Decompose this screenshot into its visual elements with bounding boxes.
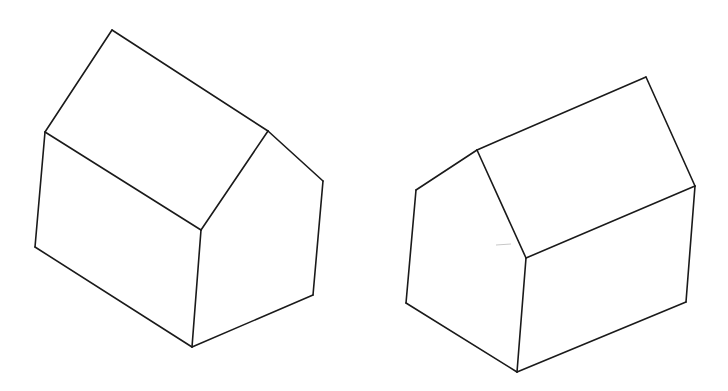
edge-gable_right_corner-base_right bbox=[313, 181, 323, 295]
left-house-drawing bbox=[35, 30, 323, 347]
edge-left_eave-base_left bbox=[35, 132, 45, 247]
edge-gable_apex-ridge_back bbox=[477, 77, 646, 150]
edge-roof_apex_back-ridge_front bbox=[112, 30, 268, 131]
edge-base_left-base_center bbox=[35, 247, 192, 347]
edge-gable_apex-front_eave_corner bbox=[477, 150, 526, 258]
edge-gable_left_corner-base_left bbox=[406, 190, 416, 303]
edge-base_center-base_right bbox=[517, 302, 686, 372]
edge-front_eave_corner-base_center bbox=[517, 258, 526, 372]
edge-left_eave-front_eave_corner bbox=[45, 132, 201, 230]
edge-base_left-base_center bbox=[406, 303, 517, 372]
scan-artifact bbox=[496, 244, 511, 245]
edge-right_eave-base_right bbox=[686, 186, 695, 302]
edge-ridge_front-gable_right_corner bbox=[268, 131, 323, 181]
edge-front_eave_corner-base_center bbox=[192, 230, 201, 347]
edge-gable_left_corner-gable_apex bbox=[416, 150, 477, 190]
figure-canvas bbox=[0, 0, 728, 391]
edge-roof_apex_back-left_eave bbox=[45, 30, 112, 132]
edge-ridge_back-right_eave bbox=[646, 77, 695, 186]
edge-ridge_front-front_eave_corner bbox=[201, 131, 268, 230]
edge-front_eave_corner-right_eave bbox=[526, 186, 695, 258]
edge-base_center-base_right bbox=[192, 295, 313, 347]
right-house-drawing bbox=[406, 77, 695, 372]
